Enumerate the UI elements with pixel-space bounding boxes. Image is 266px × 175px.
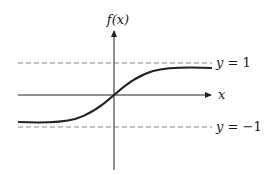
upper-asymptote-label: y = 1 — [215, 55, 251, 70]
lower-asymptote-eq: = — [223, 119, 242, 134]
lower-asymptote-val: −1 — [243, 119, 262, 134]
upper-asymptote-val: 1 — [243, 55, 251, 70]
function-graph: f(x) x y = 1 y = −1 — [0, 0, 266, 175]
upper-asymptote-eq: = — [223, 55, 242, 70]
y-axis-label: f(x) — [106, 12, 129, 27]
lower-asymptote-label: y = −1 — [215, 119, 262, 134]
x-axis-label: x — [218, 87, 226, 102]
